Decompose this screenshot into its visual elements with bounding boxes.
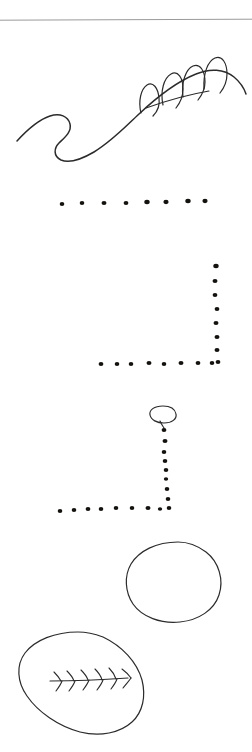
dot-marker	[163, 200, 168, 204]
figure-wave-with-arches	[17, 57, 246, 161]
dot-marker	[179, 361, 184, 365]
dot-marker	[72, 508, 77, 512]
dot-marker	[214, 321, 219, 325]
dotted-corner-upper-vertical	[213, 264, 221, 364]
dot-marker	[86, 507, 91, 511]
dot-marker	[99, 507, 104, 511]
figure-dotted-corner-lower	[58, 428, 172, 513]
dot-marker	[167, 506, 172, 510]
dot-marker	[213, 293, 218, 297]
dot-marker	[144, 200, 149, 204]
dot-marker	[102, 201, 107, 205]
dot-marker	[164, 468, 169, 472]
dot-marker	[215, 307, 220, 311]
dot-marker	[147, 361, 152, 365]
dot-marker	[60, 202, 65, 206]
sketch-page: Hand-drawn sketch page	[0, 0, 252, 752]
dot-marker	[196, 361, 201, 365]
dot-marker	[213, 264, 218, 268]
dot-marker	[166, 497, 171, 501]
dot-marker	[215, 335, 220, 339]
dot-marker	[158, 507, 162, 511]
dot-marker	[99, 362, 104, 366]
dot-marker	[210, 361, 215, 365]
sketch-canvas	[0, 0, 252, 752]
dot-marker	[202, 199, 207, 203]
dot-marker	[146, 506, 151, 510]
dot-marker	[130, 506, 135, 510]
dot-marker	[163, 439, 168, 443]
dot-marker	[185, 199, 190, 203]
dotted-corner-lower-vertical	[162, 428, 172, 510]
figure-ellipse-head	[150, 406, 176, 428]
dot-marker	[124, 201, 129, 205]
dotted-corner-upper-horizontal	[99, 361, 215, 366]
dot-marker	[164, 477, 168, 481]
divider-rule	[0, 19, 252, 20]
dot-marker	[215, 348, 220, 352]
dot-marker	[163, 459, 168, 463]
dot-marker	[129, 362, 134, 366]
dot-marker	[80, 201, 85, 205]
dot-marker	[115, 362, 120, 366]
figure-blob-plain	[126, 542, 221, 622]
dot-marker	[114, 506, 119, 510]
figure-dotted-corner-upper	[99, 264, 221, 366]
dot-marker	[162, 450, 167, 454]
figure-blob-feather	[19, 632, 144, 734]
dotted-corner-lower-horizontal	[58, 506, 163, 513]
dot-marker	[216, 360, 221, 364]
dot-marker	[213, 279, 218, 283]
dot-marker	[58, 509, 63, 513]
dot-marker	[165, 487, 170, 491]
dot-marker	[162, 428, 167, 432]
dot-marker	[162, 362, 167, 366]
figure-dotted-row	[60, 199, 208, 206]
